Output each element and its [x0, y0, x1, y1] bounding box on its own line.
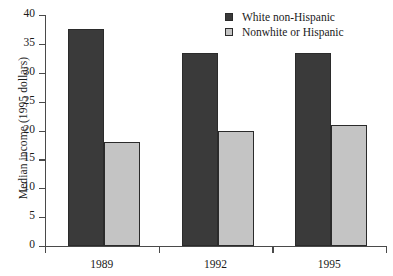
y-axis-tick: 15	[39, 159, 46, 160]
y-axis-tick: 40	[39, 15, 46, 16]
x-axis-line	[45, 246, 386, 247]
y-axis-tick: 25	[39, 102, 46, 103]
y-axis-tick-label: 15	[24, 151, 36, 163]
x-axis-tick	[272, 246, 273, 253]
y-axis-tick: 30	[39, 73, 46, 74]
y-axis-tick-label: 35	[24, 36, 36, 48]
y-axis-tick-label: 30	[24, 65, 36, 77]
bar	[331, 125, 367, 246]
y-axis-tick-label: 25	[24, 94, 36, 106]
x-axis-group-label: 1992	[204, 258, 227, 270]
bar-chart: Median income (1995 dollars) White non-H…	[0, 0, 393, 276]
y-axis-tick-label: 10	[24, 180, 36, 192]
y-axis-tick: 35	[39, 44, 46, 45]
x-axis-group-label: 1995	[318, 258, 341, 270]
bar	[295, 53, 331, 246]
bar	[68, 29, 104, 246]
x-axis-tick	[386, 246, 387, 253]
y-axis-tick: 5	[39, 217, 46, 218]
x-axis-tick	[159, 246, 160, 253]
bar	[104, 142, 140, 246]
x-axis-tick	[45, 246, 46, 253]
y-axis-tick-label: 20	[24, 123, 36, 135]
y-axis-tick: 20	[39, 131, 46, 132]
y-axis-tick: 10	[39, 188, 46, 189]
y-axis-tick-label: 5	[29, 209, 35, 221]
bar	[218, 131, 254, 247]
x-axis-group-label: 1989	[90, 258, 113, 270]
plot-area: 0510152025303540198919921995	[45, 15, 386, 246]
bar	[182, 53, 218, 246]
y-axis-tick-label: 0	[29, 238, 35, 250]
y-axis-tick-label: 40	[24, 7, 36, 19]
